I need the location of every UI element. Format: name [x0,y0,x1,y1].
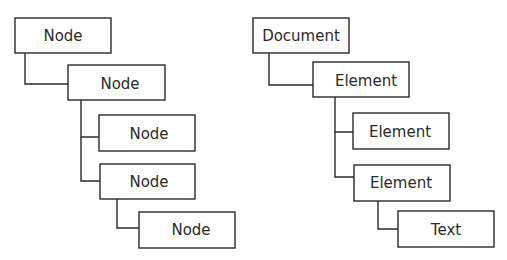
element-box: Element [353,113,449,149]
connector-n1-n2 [25,53,68,84]
tree-diagram: Node Node Node Node Node Document [0,0,507,260]
node-box: Node [100,164,195,199]
node-label: Node [171,221,210,239]
node-label: Node [100,75,139,93]
node-box: Node [15,18,111,53]
node-label: Node [43,27,82,45]
node-label: Element [369,123,431,141]
text-node-box: Text [398,211,494,247]
connector-d2-d3 [335,97,353,132]
node-label: Text [430,221,461,239]
document-box: Document [253,18,349,53]
element-box: Element [354,165,450,201]
generic-node-tree: Node Node Node Node Node [15,18,235,248]
node-box: Node [68,65,165,100]
node-label: Node [129,125,168,143]
connector-n4-n5 [117,198,139,228]
element-box: Element [313,62,409,97]
connector-n2-n4 [81,137,100,181]
connector-d1-d2 [269,53,313,85]
node-box: Node [139,212,235,248]
node-box: Node [99,115,195,151]
node-label: Node [129,173,168,191]
node-label: Element [370,174,432,192]
connector-n2-n3 [81,100,99,137]
dom-tree: Document Element Element Element Text [253,18,494,247]
connector-d4-d5 [378,201,398,229]
connector-d2-d4 [335,132,354,177]
node-label: Element [335,72,397,90]
node-label: Document [262,27,340,45]
